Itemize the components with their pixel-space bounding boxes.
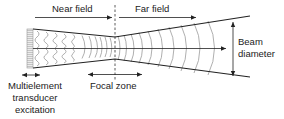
far-field-label: Far field	[135, 3, 169, 14]
transducer-label-line1: Multielement	[0, 80, 70, 91]
transducer-label-line2: transducer	[0, 92, 70, 103]
beam-diameter-label-line2: diameter	[238, 48, 275, 59]
focal-zone-label: Focal zone	[90, 80, 136, 91]
transducer-label-line3: excitation	[0, 104, 70, 115]
near-field-label: Near field	[52, 3, 93, 14]
beam-diameter-label-line1: Beam	[238, 36, 263, 47]
transducer-element	[27, 29, 33, 68]
